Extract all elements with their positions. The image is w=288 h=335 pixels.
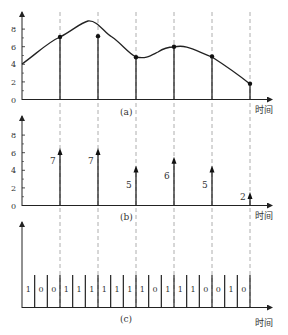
panel-b-sampled-values: 02468 775652 (b) 时间 [11,116,273,222]
sample-value-label: 7 [88,156,94,166]
arrow-up-icon [172,157,177,164]
y-tick-label: 4 [11,166,16,175]
bit-value: 0 [241,285,246,294]
y-tick-label: 2 [11,78,16,87]
panel-label-c: (c) [120,314,132,324]
bit-value: 1 [64,285,69,294]
sample-dot [248,81,252,85]
arrow-up-icon [210,166,215,173]
bit-sequence: 100111111101110010 [26,275,250,308]
sample-value-label: 5 [202,180,208,190]
y-tick-label: 8 [11,25,16,34]
y-tick-label: 0 [11,202,16,211]
panel-a-analog-signal: 02468 (a) 时间 [11,12,273,117]
arrow-up-icon [134,166,139,173]
y-tick-label: 8 [11,131,16,140]
bit-value: 1 [127,285,132,294]
x-axis-title-b: 时间 [255,210,273,221]
sample-points-a [58,34,252,100]
bit-value: 1 [26,285,31,294]
panel-label-a: (a) [120,107,132,117]
sample-value-label: 6 [164,171,170,181]
arrow-up-icon [96,148,101,155]
sample-value-label: 5 [126,180,132,190]
x-axis-title-a: 时间 [255,104,273,115]
bit-value: 1 [115,285,120,294]
bit-value: 1 [165,285,170,294]
sample-value-label: 2 [240,192,246,202]
bit-value: 0 [203,285,208,294]
sample-dot [134,55,138,59]
sample-dot [210,54,214,58]
bit-value: 0 [216,285,221,294]
bit-value: 1 [89,285,94,294]
panel-label-b: (b) [120,212,133,222]
bit-value: 0 [153,285,158,294]
y-ticks-b: 02468 [11,131,25,210]
y-tick-label: 4 [11,60,16,69]
bit-value: 0 [39,285,44,294]
bit-value: 1 [229,285,234,294]
sample-impulses: 775652 [50,148,253,206]
pcm-diagram: 02468 (a) 时间 02468 775652 (b) 时间 1001111… [0,0,288,335]
sample-dot [58,35,62,39]
arrow-up-icon [248,192,253,199]
bit-value: 1 [191,285,196,294]
sample-dot [172,45,176,49]
y-tick-label: 2 [11,184,16,193]
y-tick-label: 6 [11,43,16,52]
sample-value-label: 7 [50,156,56,166]
y-tick-label: 6 [11,149,16,158]
bit-value: 1 [77,285,82,294]
x-axis-title-c: 时间 [255,317,273,328]
arrow-up-icon [58,148,63,155]
bit-value: 1 [178,285,183,294]
bit-value: 1 [102,285,107,294]
y-ticks-a: 02468 [11,25,25,104]
diagram-svg: 02468 (a) 时间 02468 775652 (b) 时间 1001111… [0,0,288,335]
y-tick-label: 0 [11,96,16,105]
bit-value: 0 [51,285,56,294]
bit-value: 1 [140,285,145,294]
sample-dot [96,34,100,38]
